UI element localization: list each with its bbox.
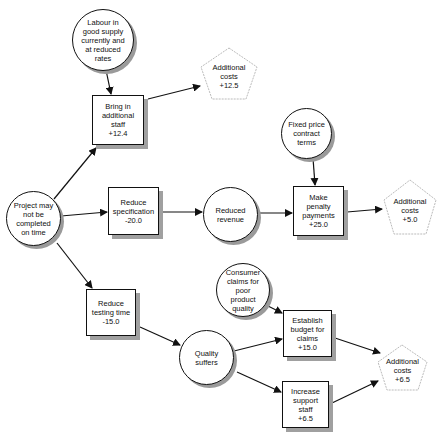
node-label: Additional costs +6.5 [386,357,419,384]
arrow-project-to-spec [61,212,107,216]
influence-diagram: Labour in good supply currently and at r… [0,0,442,439]
arrow-testing-to-quality [140,327,180,345]
node-label: Quality suffers [195,349,218,367]
node-label: Project may not be completed on time [14,201,54,237]
node-bring-in-staff: Bring in additional staff +12.4 [92,95,144,145]
node-additional-costs-2: Additional costs +5.0 [383,179,437,235]
node-reduce-testing: Reduce testing time -15.0 [86,289,136,336]
arrow-labour-to-staff [106,70,111,94]
arrow-project-to-testing [57,243,92,288]
node-label: Reduce specification -20.0 [113,198,154,225]
node-consumer-claims: Consumer claims for poor product quality [216,263,270,317]
arrow-budget-to-cost3 [335,338,380,353]
node-label: Fixed price contract terms [288,120,325,147]
node-label: Increase support staff +6.5 [291,387,320,423]
arrow-staff-to-cost1 [148,86,200,99]
arrow-claims-to-budget [266,305,282,313]
node-label: Reduce testing time -15.0 [92,299,130,326]
node-additional-costs-3: Additional costs +6.5 [377,344,428,391]
node-additional-costs-1: Additional costs +12.5 [200,47,258,100]
node-budget-for-claims: Establish budget for claims +15.0 [283,310,332,357]
node-label: Make penalty payments +25.0 [302,193,335,229]
node-penalty-payments: Make penalty payments +25.0 [293,186,344,236]
arrow-fixedprice-to-penalty [313,158,315,185]
node-label: Additional costs +5.0 [394,197,427,224]
node-label: Additional costs +12.5 [213,63,246,90]
node-reduce-specification: Reduce specification -20.0 [108,187,159,235]
arrow-support-to-cost3 [332,381,378,403]
node-support-staff: Increase support staff +6.5 [282,381,329,428]
arrow-project-to-staff [54,148,96,199]
node-label: Consumer claims for poor product quality [226,268,261,313]
node-project-late: Project may not be completed on time [6,191,61,246]
node-label: Reduced revenue [215,206,245,224]
node-label: Labour in good supply currently and at r… [81,18,124,63]
node-reduced-revenue: Reduced revenue [203,187,258,242]
node-labour-supply: Labour in good supply currently and at r… [72,9,134,71]
arrow-quality-to-support [237,372,281,392]
node-fixed-price: Fixed price contract terms [281,108,332,159]
node-label: Establish budget for claims +15.0 [291,316,325,352]
arrow-quality-to-budget [234,339,282,351]
arrow-penalty-to-cost2 [347,209,382,212]
node-quality-suffers: Quality suffers [179,330,234,385]
node-label: Bring in additional staff +12.4 [102,102,134,138]
